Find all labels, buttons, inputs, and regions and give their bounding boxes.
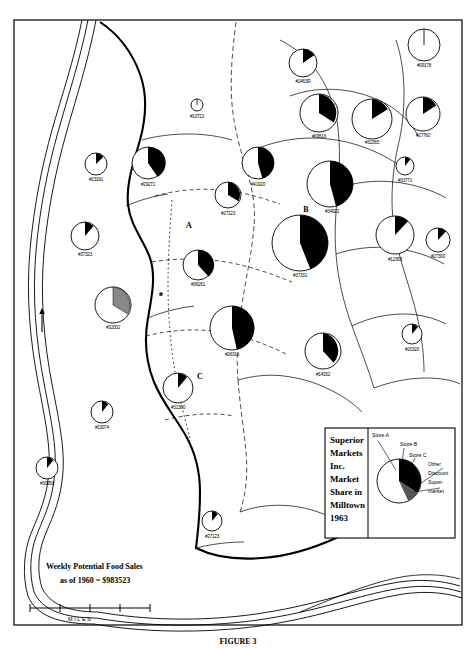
- pie-label: #36261: [191, 282, 206, 287]
- pie-label: #09178: [417, 63, 432, 68]
- pie-label: #37323: [78, 252, 93, 257]
- pie-label: #27123: [205, 534, 220, 539]
- legend-title-line-7: 1963: [330, 513, 349, 523]
- pie-label: #37331: [293, 273, 308, 278]
- pie-label: #32002: [106, 325, 121, 330]
- pie-label: #29271: [141, 182, 156, 187]
- legend-label-other: Other: [428, 461, 441, 467]
- pie-label: #30950: [40, 481, 55, 486]
- legend-label-super: Super-: [428, 479, 444, 485]
- sales-note-line-1: Weekly Potential Food Sales: [46, 562, 143, 571]
- zone-label-a: A: [186, 221, 192, 230]
- pie-label: #27300: [431, 254, 446, 259]
- legend-title-line-3: Inc.: [330, 461, 345, 471]
- figure-caption: FIGURE 3: [219, 637, 256, 646]
- pie-label: #27123: [221, 211, 236, 216]
- legend-title-line-5: Share in: [330, 487, 362, 497]
- pie-label: #31300: [171, 405, 186, 410]
- pie-label: #14332: [316, 372, 331, 377]
- pie-label: #26316: [225, 352, 240, 357]
- legend-title-line-6: Milltown: [330, 500, 365, 510]
- pie-label: #33771: [398, 178, 413, 183]
- sales-note-line-2: as of 1960 = $983523: [60, 576, 130, 585]
- legend-title-line-1: Superior: [330, 435, 364, 445]
- pie-label: #23191: [89, 177, 104, 182]
- pie-label: #32365: [365, 140, 380, 145]
- pie-label: #10074: [95, 425, 110, 430]
- legend-label-discount: Discount: [428, 470, 449, 476]
- pie-chart[interactable]: #27123: [202, 511, 222, 539]
- legend-label-store-b: Store B: [400, 441, 418, 447]
- zone-label-c: C: [197, 372, 203, 381]
- legend-label-store-a: Store A: [372, 432, 390, 438]
- pie-label: #27760: [416, 133, 431, 138]
- legend-label-store-c: Store C: [409, 452, 427, 458]
- pie-chart[interactable]: #20320: [402, 324, 422, 352]
- pie-label: #20320: [405, 347, 420, 352]
- pie-label: #10722: [190, 114, 205, 119]
- pie-label: #41920: [251, 182, 266, 187]
- map-figure: #09178 #2463R #10722 #09516 #32365 #2776…: [0, 0, 476, 648]
- legend-label-market: market: [428, 488, 444, 494]
- pie-chart[interactable]: #33771: [396, 157, 414, 183]
- zone-label-b: B: [303, 205, 309, 214]
- pie-label: #34922: [325, 209, 340, 214]
- scale-bar-label: MILES: [68, 616, 93, 622]
- star-marker-icon: *: [159, 290, 164, 302]
- pie-label: #09516: [312, 134, 327, 139]
- legend-title-line-4: Market: [330, 474, 359, 484]
- legend-title-line-2: Markets: [330, 448, 363, 458]
- legend: Superior Markets Inc. Market Share in Mi…: [325, 428, 455, 538]
- pie-label: #12353: [388, 257, 403, 262]
- pie-label: #2463R: [296, 79, 312, 84]
